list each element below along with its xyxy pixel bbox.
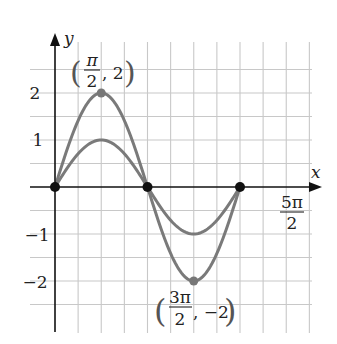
svg-text:5π: 5π (281, 192, 303, 212)
svg-text:2: 2 (175, 309, 186, 329)
intercept-point (50, 182, 60, 192)
svg-text:2: 2 (287, 213, 298, 233)
svg-text:, 2: , 2 (102, 63, 124, 83)
x-axis-label: x (311, 162, 321, 182)
x-tick-5pi-over-2: 5π 2 (280, 192, 304, 233)
svg-text:π: π (85, 50, 98, 70)
svg-text:): ) (224, 292, 236, 330)
sine-graph: x y 2 1 −1 −2 5π 2 ( π 2 , 2 ) (0, 0, 337, 344)
y-tick-neg1: −1 (24, 225, 49, 245)
y-axis-label: y (63, 28, 74, 48)
svg-text:2: 2 (87, 71, 98, 91)
y-tick-neg2: −2 (22, 272, 47, 292)
extremum-point (97, 89, 106, 98)
annotation-max-point: ( π 2 , 2 ) (70, 50, 136, 91)
svg-text:(: ( (70, 55, 82, 90)
annotation-min-point: ( 3π 2 , −2 ) (154, 287, 236, 330)
extremum-point (189, 277, 198, 286)
x-axis-arrow-icon (309, 182, 322, 192)
y-axis-arrow-icon (50, 33, 60, 46)
svg-text:3π: 3π (169, 287, 191, 307)
annotations: ( π 2 , 2 ) ( 3π 2 , −2 ) (70, 50, 236, 330)
y-tick-1: 1 (33, 130, 44, 150)
svg-text:(: ( (154, 292, 166, 330)
intercept-point (143, 182, 153, 192)
y-tick-2: 2 (30, 83, 41, 103)
svg-text:): ) (124, 55, 136, 90)
intercept-point (235, 182, 245, 192)
